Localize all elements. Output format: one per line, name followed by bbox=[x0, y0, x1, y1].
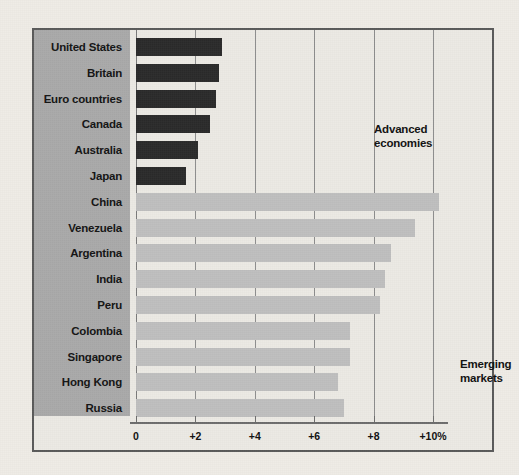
category-label-peru: Peru bbox=[34, 292, 122, 318]
category-label-united-states: United States bbox=[34, 34, 122, 60]
bar-argentina bbox=[136, 244, 391, 262]
bar-japan bbox=[136, 167, 186, 185]
bar-united-states bbox=[136, 38, 222, 56]
tick-mark-2 bbox=[195, 416, 196, 424]
category-label-canada: Canada bbox=[34, 111, 122, 137]
bar-australia bbox=[136, 141, 198, 159]
annotation-advanced-line2: economies bbox=[374, 136, 432, 150]
bar-russia bbox=[136, 399, 344, 417]
bar-euro-countries bbox=[136, 90, 216, 108]
category-label-australia: Australia bbox=[34, 137, 122, 163]
category-label-colombia: Colombia bbox=[34, 318, 122, 344]
tick-mark-6 bbox=[314, 416, 315, 424]
tick-label-6: +6 bbox=[308, 430, 320, 442]
bar-hong-kong bbox=[136, 373, 338, 391]
annotation-emerging-line2: markets bbox=[460, 371, 511, 385]
chart-frame: Advanced economies Emerging markets Unit… bbox=[32, 28, 494, 452]
bar-colombia bbox=[136, 322, 350, 340]
category-label-japan: Japan bbox=[34, 163, 122, 189]
tick-label-4: +4 bbox=[249, 430, 261, 442]
tick-mark-10 bbox=[433, 416, 434, 424]
tick-mark-4 bbox=[255, 416, 256, 424]
category-label-singapore: Singapore bbox=[34, 344, 122, 370]
bar-venezuela bbox=[136, 219, 415, 237]
category-label-hong-kong: Hong Kong bbox=[34, 369, 122, 395]
tick-label-10: +10% bbox=[419, 430, 446, 442]
tick-label-8: +8 bbox=[368, 430, 380, 442]
x-axis: 0+2+4+6+8+10% bbox=[130, 416, 492, 452]
annotation-emerging-line1: Emerging bbox=[460, 357, 511, 371]
plot-area: Advanced economies Emerging markets bbox=[130, 30, 492, 416]
category-label-euro-countries: Euro countries bbox=[34, 86, 122, 112]
bar-canada bbox=[136, 115, 210, 133]
bar-china bbox=[136, 193, 439, 211]
category-label-russia: Russia bbox=[34, 395, 122, 421]
category-label-india: India bbox=[34, 266, 122, 292]
bar-india bbox=[136, 270, 385, 288]
gridline-10 bbox=[433, 30, 434, 416]
x-axis-line bbox=[130, 422, 448, 424]
tick-mark-0 bbox=[136, 416, 137, 424]
annotation-emerging-markets: Emerging markets bbox=[460, 357, 511, 385]
bar-britain bbox=[136, 64, 219, 82]
category-label-china: China bbox=[34, 189, 122, 215]
category-label-argentina: Argentina bbox=[34, 240, 122, 266]
bar-peru bbox=[136, 296, 380, 314]
annotation-advanced-economies: Advanced economies bbox=[374, 122, 432, 150]
bar-singapore bbox=[136, 348, 350, 366]
annotation-advanced-line1: Advanced bbox=[374, 122, 432, 136]
category-label-britain: Britain bbox=[34, 60, 122, 86]
tick-mark-8 bbox=[374, 416, 375, 424]
tick-label-2: +2 bbox=[189, 430, 201, 442]
category-label-venezuela: Venezuela bbox=[34, 215, 122, 241]
tick-label-0: 0 bbox=[133, 430, 139, 442]
